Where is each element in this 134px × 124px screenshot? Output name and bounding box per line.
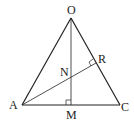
- label-O: O: [67, 3, 76, 17]
- label-R: R: [98, 52, 106, 66]
- label-C: C: [121, 100, 129, 114]
- geometry-diagram: O A C M N R: [0, 0, 134, 124]
- segment-OA: [22, 18, 71, 105]
- label-M: M: [66, 108, 77, 122]
- label-A: A: [9, 98, 18, 112]
- right-angle-mark-M: [66, 100, 71, 105]
- segment-AR: [22, 63, 96, 105]
- label-N: N: [60, 65, 69, 79]
- segment-OC: [71, 18, 120, 105]
